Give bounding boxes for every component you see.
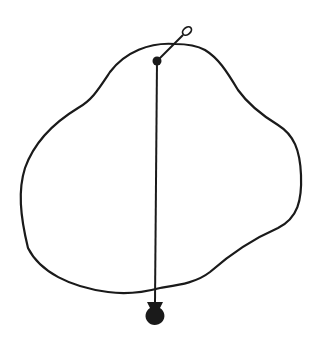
plumb-line	[155, 61, 157, 302]
lamina-outline	[21, 44, 301, 293]
diagram-svg	[0, 0, 322, 341]
plumb-bob-icon	[146, 302, 165, 325]
pivot-handle-shaft	[157, 35, 183, 61]
